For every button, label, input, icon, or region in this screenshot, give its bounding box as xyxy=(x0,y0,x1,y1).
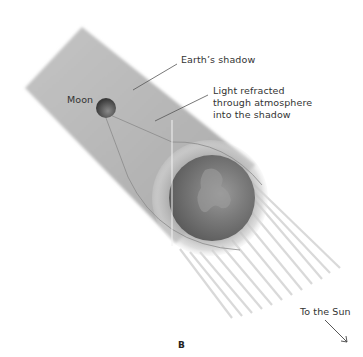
label-refracted-3: into the shadow xyxy=(213,109,291,121)
label-refracted-1: Light refracted xyxy=(213,85,285,97)
panel-label: B xyxy=(178,339,185,351)
label-refracted-2: through atmosphere xyxy=(213,97,312,109)
label-to-sun: To the Sun xyxy=(300,306,351,318)
moon xyxy=(96,98,116,118)
label-earth-shadow: Earth’s shadow xyxy=(181,54,255,66)
to-sun-arrow-icon xyxy=(325,320,347,342)
label-moon: Moon xyxy=(67,94,93,106)
